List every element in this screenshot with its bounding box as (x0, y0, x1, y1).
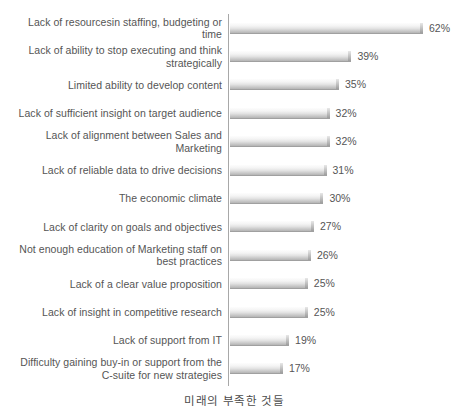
x-axis-caption: 미래의 부족한 것들 (0, 392, 469, 408)
bar-value-label: 26% (317, 250, 338, 261)
bar-track: 32% (230, 128, 357, 156)
bar (230, 23, 423, 34)
bar-track: 26% (230, 241, 338, 269)
category-label-text: The economic climate (119, 192, 222, 204)
category-label: Lack of support from IT (8, 326, 222, 354)
bar-value-label: 30% (329, 193, 350, 204)
bar-track: 25% (230, 270, 335, 298)
category-label: Difficulty gaining buy-in or support fro… (8, 355, 222, 383)
bar (230, 335, 289, 346)
bar-track: 19% (230, 326, 316, 354)
category-label: Lack of sufficient insight on target aud… (8, 99, 222, 127)
bar (230, 307, 308, 318)
category-label: Lack of clarity on goals and objectives (8, 213, 222, 241)
category-label-text: Difficulty gaining buy-in or support fro… (8, 356, 222, 381)
bar-track: 17% (230, 355, 310, 383)
category-label: The economic climate (8, 184, 222, 212)
bar-value-label: 32% (336, 108, 357, 119)
bar (230, 363, 283, 374)
bar-rows-container: Lack of resourcesin staffing, budgeting … (0, 14, 469, 383)
bar-value-label: 35% (345, 79, 366, 90)
bar-row: Lack of insight in competitive research2… (0, 298, 469, 326)
bar (230, 136, 330, 147)
category-label: Lack of ability to stop executing and th… (8, 42, 222, 70)
bar-track: 27% (230, 213, 341, 241)
bar (230, 108, 330, 119)
category-label-text: Lack of resourcesin staffing, budgeting … (8, 16, 222, 41)
category-label: Lack of insight in competitive research (8, 298, 222, 326)
bar-row: Lack of reliable data to drive decisions… (0, 156, 469, 184)
bar (230, 278, 308, 289)
bar-track: 32% (230, 99, 357, 127)
bar (230, 193, 323, 204)
bar-row: Not enough education of Marketing staff … (0, 241, 469, 269)
bar-track: 39% (230, 42, 378, 70)
bar-track: 62% (230, 14, 450, 42)
bar-row: Limited ability to develop content35% (0, 71, 469, 99)
category-label: Not enough education of Marketing staff … (8, 241, 222, 269)
category-label-text: Limited ability to develop content (68, 79, 222, 91)
bar-track: 35% (230, 71, 366, 99)
bar-row: Lack of clarity on goals and objectives2… (0, 213, 469, 241)
bar-value-label: 32% (336, 136, 357, 147)
bar-row: Lack of support from IT19% (0, 326, 469, 354)
category-label: Lack of reliable data to drive decisions (8, 156, 222, 184)
bar-row: Lack of resourcesin staffing, budgeting … (0, 14, 469, 42)
bar (230, 51, 351, 62)
bar-row: Lack of a clear value proposition25% (0, 270, 469, 298)
horizontal-bar-chart: Lack of resourcesin staffing, budgeting … (0, 0, 469, 419)
bar-value-label: 19% (295, 335, 316, 346)
bar-value-label: 17% (289, 363, 310, 374)
bar-track: 25% (230, 298, 335, 326)
bar-value-label: 25% (314, 278, 335, 289)
category-label: Lack of alignment between Sales and Mark… (8, 128, 222, 156)
category-label-text: Not enough education of Marketing staff … (8, 243, 222, 268)
bar (230, 165, 327, 176)
bar-track: 31% (230, 156, 354, 184)
bar-row: Lack of alignment between Sales and Mark… (0, 128, 469, 156)
category-label-text: Lack of insight in competitive research (42, 306, 222, 318)
bar-value-label: 39% (357, 51, 378, 62)
category-label: Lack of resourcesin staffing, budgeting … (8, 14, 222, 42)
bar-value-label: 31% (333, 165, 354, 176)
category-label-text: Lack of alignment between Sales and Mark… (8, 129, 222, 154)
bar-row: The economic climate30% (0, 184, 469, 212)
bar-row: Difficulty gaining buy-in or support fro… (0, 355, 469, 383)
category-label-text: Lack of ability to stop executing and th… (8, 44, 222, 69)
bar-row: Lack of sufficient insight on target aud… (0, 99, 469, 127)
bar-value-label: 27% (320, 221, 341, 232)
bar (230, 250, 311, 261)
bar (230, 79, 339, 90)
category-label: Limited ability to develop content (8, 71, 222, 99)
bar-value-label: 25% (314, 307, 335, 318)
category-label-text: Lack of clarity on goals and objectives (43, 221, 222, 233)
category-label-text: Lack of support from IT (113, 334, 222, 346)
bar-row: Lack of ability to stop executing and th… (0, 42, 469, 70)
category-label: Lack of a clear value proposition (8, 270, 222, 298)
category-label-text: Lack of a clear value proposition (70, 278, 222, 290)
bar (230, 221, 314, 232)
category-label-text: Lack of reliable data to drive decisions (42, 164, 222, 176)
category-label-text: Lack of sufficient insight on target aud… (19, 107, 222, 119)
bar-track: 30% (230, 184, 350, 212)
bar-value-label: 62% (429, 23, 450, 34)
